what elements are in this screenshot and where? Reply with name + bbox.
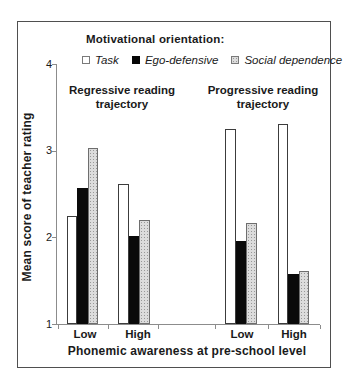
- task-swatch-icon: [82, 56, 90, 64]
- x-tick-mark: [268, 325, 269, 329]
- bar-task-low-regressive: [67, 216, 78, 324]
- group-header-regressive: Regressive reading trajectory: [56, 83, 188, 111]
- y-tick-label: 3: [36, 144, 52, 156]
- y-tick-label: 2: [36, 231, 52, 243]
- legend-item-ego-defensive: Ego-defensive: [132, 54, 219, 66]
- y-axis-title: Mean score of teacher rating: [20, 113, 34, 282]
- legend: Task Ego-defensive Social dependence: [82, 54, 342, 66]
- x-axis-line: [56, 324, 320, 325]
- bar-social-dependence-high-regressive: [139, 220, 150, 324]
- y-tick-label: 4: [36, 58, 52, 70]
- y-tick-mark: [52, 64, 56, 65]
- legend-item-social-dependence: Social dependence: [231, 54, 342, 66]
- legend-label-ego-defensive: Ego-defensive: [145, 54, 219, 66]
- bar-ego-defensive-high-regressive: [129, 236, 140, 324]
- bar-task-high-progressive: [278, 124, 289, 324]
- legend-label-social-dependence: Social dependence: [244, 54, 342, 66]
- bar-social-dependence-high-progressive: [299, 271, 310, 324]
- y-tick-label: 1: [36, 318, 52, 330]
- x-category-label: High: [125, 328, 151, 340]
- x-tick-mark: [58, 325, 59, 329]
- x-category-label: Low: [231, 328, 254, 340]
- y-axis-line: [56, 64, 57, 324]
- x-tick-mark: [158, 325, 159, 329]
- legend-item-task: Task: [82, 54, 119, 66]
- x-tick-mark: [215, 325, 216, 329]
- y-tick-mark: [52, 237, 56, 238]
- bar-social-dependence-low-regressive: [88, 148, 99, 324]
- bar-ego-defensive-high-progressive: [288, 274, 299, 324]
- bar-task-low-progressive: [225, 129, 236, 324]
- x-tick-mark: [320, 325, 321, 329]
- legend-title: Motivational orientation:: [86, 33, 225, 45]
- x-tick-mark: [108, 325, 109, 329]
- bar-ego-defensive-low-progressive: [236, 241, 247, 324]
- bar-social-dependence-low-progressive: [246, 223, 257, 324]
- x-axis-title: Phonemic awareness at pre-school level: [68, 344, 306, 358]
- y-tick-mark: [52, 151, 56, 152]
- social-dependence-swatch-icon: [231, 56, 239, 64]
- bar-task-high-regressive: [118, 184, 129, 324]
- x-category-label: Low: [74, 328, 97, 340]
- bar-ego-defensive-low-regressive: [77, 188, 88, 324]
- ego-defensive-swatch-icon: [132, 56, 140, 64]
- group-header-progressive: Progressive reading trajectory: [197, 83, 329, 111]
- figure: Motivational orientation: Task Ego-defen…: [0, 0, 349, 386]
- x-category-label: High: [281, 328, 307, 340]
- y-tick-mark: [52, 324, 56, 325]
- legend-label-task: Task: [95, 54, 119, 66]
